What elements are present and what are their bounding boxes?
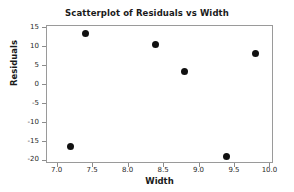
y-tick-label: 10 xyxy=(0,43,39,50)
y-tick-mark xyxy=(42,160,46,161)
y-tick-mark xyxy=(42,122,46,123)
x-tick-label: 9.0 xyxy=(179,166,219,174)
x-tick-label: 7.0 xyxy=(37,166,77,174)
x-tick-label: 7.5 xyxy=(72,166,112,174)
y-tick-label: -5 xyxy=(0,100,39,107)
y-tick-mark xyxy=(42,46,46,47)
y-tick-label: -15 xyxy=(0,138,39,145)
x-tick-label: 10.0 xyxy=(249,166,289,174)
scatterplot-figure: Scatterplot of Residuals vs Width 151050… xyxy=(0,0,294,192)
y-tick-label: -20 xyxy=(0,156,39,163)
chart-title: Scatterplot of Residuals vs Width xyxy=(0,8,294,18)
y-tick-mark xyxy=(42,103,46,104)
y-tick-label: 0 xyxy=(0,81,39,88)
y-tick-mark xyxy=(42,65,46,66)
y-tick-mark xyxy=(42,27,46,28)
x-axis-label: Width xyxy=(46,176,273,186)
y-tick-mark xyxy=(42,84,46,85)
x-tick-label: 8.0 xyxy=(108,166,148,174)
y-tick-label: 5 xyxy=(0,62,39,69)
y-axis-label: Residuals xyxy=(9,27,19,99)
x-tick-label: 8.5 xyxy=(143,166,183,174)
y-tick-label: 15 xyxy=(0,24,39,31)
y-tick-mark xyxy=(42,141,46,142)
y-tick-label: -10 xyxy=(0,119,39,126)
x-tick-label: 9.5 xyxy=(214,166,254,174)
plot-area xyxy=(46,25,273,163)
